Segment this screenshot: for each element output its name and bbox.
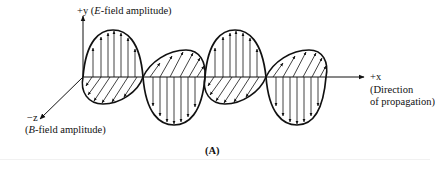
axes <box>40 16 364 119</box>
b-field-label: (B-field amplitude) <box>25 124 106 136</box>
x-axis-label: +x <box>370 71 381 83</box>
propagation-note-line2: of propagation) <box>370 96 435 108</box>
z-axis <box>40 77 83 119</box>
propagation-note-line1: (Direction <box>370 84 413 96</box>
divider <box>0 159 430 160</box>
z-axis-label: −z <box>27 112 38 124</box>
figure-caption: (A) <box>205 145 220 157</box>
y-axis-label: +y (E-field amplitude) <box>77 5 172 17</box>
